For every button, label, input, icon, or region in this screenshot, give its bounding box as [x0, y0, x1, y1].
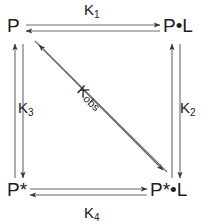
edge-k1-main: K	[84, 1, 94, 18]
edge-k2-main: K	[180, 99, 190, 116]
node-label-pstarl: P*•L	[150, 180, 187, 199]
thermodynamic-cycle-diagram: P P•L P* P*•L K1 K2 K3 K4 Kobs	[0, 0, 204, 224]
edge-k2-subscript: 2	[190, 107, 196, 118]
edge-label-k4: K4	[84, 205, 100, 224]
edge-label-k1: K1	[84, 2, 100, 22]
edge-k1-subscript: 1	[94, 9, 100, 20]
node-label-p: P	[7, 16, 20, 35]
node-label-pstar: P*	[7, 180, 27, 199]
node-pstar-text: P*	[7, 179, 27, 200]
edge-k3-subscript: 3	[28, 107, 34, 118]
node-label-pl: P•L	[163, 16, 193, 35]
node-pl-text: P•L	[163, 15, 193, 36]
edge-label-k2: K2	[180, 100, 196, 120]
node-pstarl-text: P*•L	[150, 179, 187, 200]
edge-k3-main: K	[18, 99, 28, 116]
arrow-kobs-up	[39, 45, 167, 172]
edge-k4-main: K	[84, 204, 94, 221]
node-p-text: P	[7, 15, 20, 36]
edge-label-k3: K3	[18, 100, 34, 120]
edge-k4-subscript: 4	[94, 212, 100, 223]
